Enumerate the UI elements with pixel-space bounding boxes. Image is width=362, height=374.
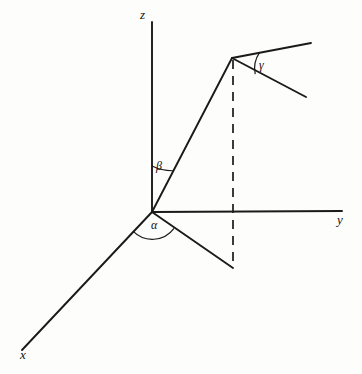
beta-angle-label: β (156, 160, 162, 172)
y-axis-label: y (337, 213, 343, 226)
diagram-svg (0, 0, 362, 374)
x-axis-label: x (20, 348, 26, 361)
position-vector-line (152, 58, 232, 212)
x-axis-line (22, 212, 152, 350)
alpha-angle-label: α (151, 219, 157, 231)
lower-ray-line (232, 58, 306, 97)
y-axis-line (152, 211, 342, 212)
projection-segment-line (152, 212, 233, 268)
upper-ray-line (232, 43, 311, 58)
gamma-angle-label: γ (259, 59, 264, 71)
figure-canvas: z y x α β γ (0, 0, 362, 374)
z-axis-label: z (140, 8, 145, 21)
